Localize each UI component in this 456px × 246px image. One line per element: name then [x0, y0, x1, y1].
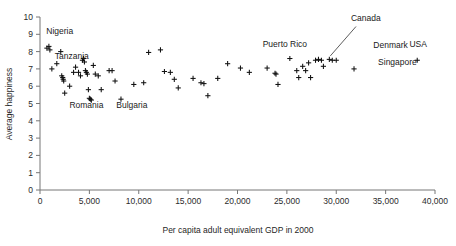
x-tick-label: 40,000: [422, 196, 448, 206]
chart-canvas: 01234567891005,00010,00015,00020,00025,0…: [0, 0, 456, 246]
data-point: [73, 65, 78, 70]
data-point: [265, 65, 270, 70]
y-tick-label: 5: [28, 99, 33, 109]
data-point: [351, 66, 356, 71]
x-tick-label: 25,000: [274, 196, 300, 206]
scatter-chart: 01234567891005,00010,00015,00020,00025,0…: [0, 0, 456, 246]
annotation-label-nigeria: Nigeria: [46, 26, 73, 36]
annotation-label-usa: USA: [409, 39, 427, 49]
data-point: [319, 58, 324, 63]
data-point: [131, 82, 136, 87]
annotation-label-canada: Canada: [351, 13, 381, 23]
x-tick-label: 0: [38, 196, 43, 206]
x-tick-label: 5,000: [79, 196, 101, 206]
annotation-label-bulgaria: Bulgaria: [116, 100, 147, 110]
data-point: [99, 87, 104, 92]
data-point: [91, 63, 96, 68]
data-point: [190, 76, 195, 81]
data-point: [112, 78, 117, 83]
data-point: [62, 91, 67, 96]
y-tick-label: 6: [28, 81, 33, 91]
y-tick-label: 3: [28, 133, 33, 143]
data-point: [327, 57, 332, 62]
data-point: [316, 57, 321, 62]
annotation-label-tanzania: Tanzania: [55, 51, 89, 61]
annotation-label-romania: Romania: [69, 100, 103, 110]
x-tick-label: 35,000: [373, 196, 399, 206]
data-point: [198, 80, 203, 85]
x-tick-label: 20,000: [225, 196, 251, 206]
data-point: [141, 80, 146, 85]
y-tick-label: 2: [28, 150, 33, 160]
data-point: [49, 66, 54, 71]
data-point: [201, 81, 206, 86]
data-point: [71, 70, 76, 75]
data-point: [294, 68, 299, 73]
y-tick-label: 7: [28, 64, 33, 74]
x-tick-label: 15,000: [175, 196, 201, 206]
data-point: [275, 82, 280, 87]
data-point: [273, 71, 278, 76]
data-point: [300, 64, 305, 69]
annotation-label-puerto-rico: Puerto Rico: [263, 39, 308, 49]
y-tick-label: 10: [24, 12, 34, 22]
data-point: [146, 50, 151, 55]
data-point: [296, 75, 301, 80]
data-point: [86, 87, 91, 92]
data-point: [215, 76, 220, 81]
y-tick-label: 9: [28, 29, 33, 39]
y-tick-label: 1: [28, 168, 33, 178]
data-point: [225, 61, 230, 66]
data-points-layer: [44, 44, 420, 103]
y-tick-label: 4: [28, 116, 33, 126]
x-tick-label: 30,000: [323, 196, 349, 206]
y-tick-label: 0: [28, 185, 33, 195]
data-point: [168, 70, 173, 75]
data-point: [303, 68, 308, 73]
x-axis-title: Per capita adult equivalent GDP in 2000: [162, 225, 313, 235]
data-point: [308, 75, 313, 80]
annotation-label-denmark: Denmark: [373, 40, 408, 50]
data-point: [176, 85, 181, 90]
data-point: [313, 58, 318, 63]
annotation-label-singapore: Singapore: [378, 57, 417, 67]
data-point: [306, 60, 311, 65]
data-point: [247, 70, 252, 75]
y-tick-label: 8: [28, 47, 33, 57]
data-point: [67, 84, 72, 89]
data-point: [162, 69, 167, 74]
data-point: [54, 61, 59, 66]
data-point: [238, 65, 243, 70]
data-point: [321, 64, 326, 69]
data-point: [158, 47, 163, 52]
annotation-leader-line: [330, 27, 356, 56]
data-point: [205, 93, 210, 98]
data-point: [172, 77, 177, 82]
annotation-labels-layer: NigeriaTanzaniaRomaniaBulgariaPuerto Ric…: [46, 13, 427, 110]
data-point: [109, 68, 114, 73]
data-point: [334, 58, 339, 63]
data-point: [287, 56, 292, 61]
y-axis-title: Average happiness: [4, 68, 14, 141]
data-point: [272, 71, 277, 76]
x-tick-label: 10,000: [126, 196, 152, 206]
